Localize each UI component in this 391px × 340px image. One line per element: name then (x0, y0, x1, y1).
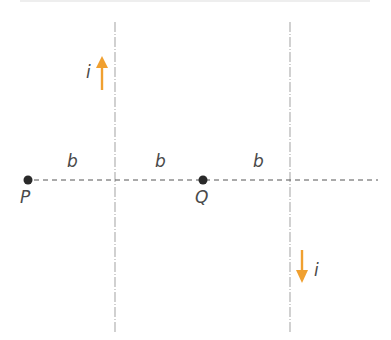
arrow-down-icon (296, 250, 308, 283)
point-label-p: P (20, 189, 30, 206)
current-label-left: i (86, 64, 91, 81)
current-label-right: i (314, 262, 319, 279)
spacing-label-1: b (67, 153, 78, 170)
spacing-label-3: b (253, 153, 264, 170)
point-label-q: Q (195, 189, 208, 206)
point-p (24, 176, 33, 185)
point-q (199, 176, 208, 185)
arrow-up-icon (96, 56, 108, 90)
spacing-label-2: b (155, 153, 166, 170)
diagram-canvas (0, 0, 391, 340)
